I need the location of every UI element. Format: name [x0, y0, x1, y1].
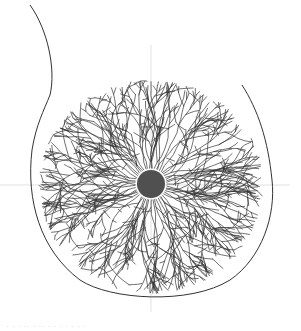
vein-branch [199, 180, 201, 187]
vein-branch [239, 226, 245, 227]
vein-branch [140, 251, 147, 252]
vein-branch [251, 139, 253, 146]
vein-branch [114, 88, 116, 95]
vein-branch [213, 259, 223, 268]
vein-branch [41, 175, 43, 182]
vein-branch [105, 203, 139, 207]
vein-branch [74, 168, 79, 176]
vein-crosslink [112, 220, 116, 222]
vein-branch [102, 127, 104, 148]
vein-branch [210, 109, 228, 141]
vein-branch [215, 237, 216, 256]
vein-branch [214, 246, 215, 254]
vein-branch [70, 235, 79, 248]
vein-branch [91, 199, 146, 274]
vein-branch [240, 174, 253, 175]
vein-branch [65, 165, 71, 168]
vein-branch [55, 236, 56, 240]
vein-branch [86, 104, 87, 112]
vein-crosslink [170, 161, 174, 166]
vein-crosslink [66, 223, 70, 228]
vein-branch [221, 162, 243, 163]
vein-branch [72, 246, 77, 251]
vein-branch [64, 216, 67, 220]
vein-branch [234, 246, 242, 250]
vein-branch [169, 269, 175, 289]
vein-branch [157, 86, 158, 103]
vein-branch [128, 265, 129, 270]
vein-branch [82, 269, 97, 271]
vein-crosslink [133, 154, 139, 156]
outline-stem-curve [30, 5, 52, 150]
vein-branch [175, 276, 184, 287]
vein-branch [246, 146, 253, 158]
vein-branch [161, 232, 171, 274]
vein-branch [137, 288, 140, 291]
vein-branch [158, 284, 160, 291]
vein-branch [43, 169, 58, 172]
vein-branch [153, 86, 157, 91]
figure-caption: · · · ·· · ·· · · · · · · · [6, 322, 86, 331]
vein-branch [40, 172, 69, 175]
vein-branch [237, 168, 258, 169]
vein-branch [102, 229, 106, 236]
vein-branch [249, 153, 251, 159]
vein-branch [88, 98, 95, 99]
vein-branch [73, 252, 88, 255]
vein-branch [220, 206, 226, 207]
vein-branch [62, 210, 64, 218]
vein-branch [204, 178, 205, 190]
vein-branch [79, 247, 85, 248]
vein-crosslink [104, 210, 110, 218]
vein-crosslink [187, 187, 188, 191]
central-hub-disc [137, 170, 165, 198]
vein-branch [89, 99, 90, 106]
vein-branch [81, 156, 86, 157]
vein-branch [110, 111, 114, 114]
vein-branch [79, 146, 88, 147]
vein-branch [93, 220, 98, 236]
vein-branch [112, 186, 122, 199]
vein-crosslink [93, 110, 97, 116]
vein-branch [102, 214, 106, 230]
vein-branch [194, 89, 195, 98]
vein-branch [42, 203, 49, 204]
vein-branch [54, 135, 91, 138]
vein-branch [157, 82, 158, 86]
vein-branch [49, 135, 54, 144]
vein-branch [193, 226, 194, 240]
venation-figure [0, 0, 301, 331]
vein-branch [225, 132, 253, 142]
vein-branch [257, 191, 262, 196]
vein-branch [51, 222, 68, 223]
vein-branch [237, 211, 238, 223]
vein-branch [129, 284, 142, 285]
vein-crosslink [217, 247, 221, 250]
vein-branch [80, 257, 83, 262]
vein-branch [54, 130, 67, 134]
vein-branch [171, 129, 192, 173]
vein-branch [242, 142, 251, 147]
vein-branch [134, 83, 143, 92]
vein-branch [97, 96, 101, 117]
vein-branch [39, 186, 43, 189]
vein-branch [101, 224, 130, 235]
vein-branch [251, 158, 259, 166]
vein-branch [229, 143, 237, 149]
vein-branch [197, 92, 200, 95]
vein-branch [221, 148, 245, 150]
vein-branch [148, 268, 169, 279]
